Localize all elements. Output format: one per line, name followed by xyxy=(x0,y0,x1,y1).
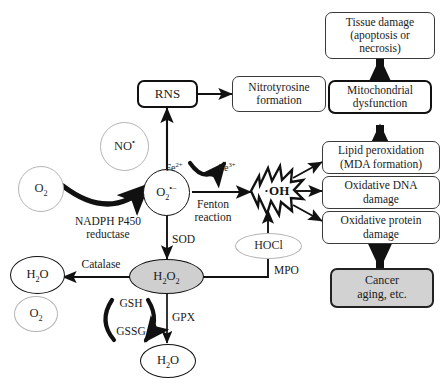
box-tissue-damage: Tissue damage (apoptosis or necrosis) xyxy=(325,12,435,59)
label-gssg: GSSG xyxy=(108,325,154,338)
hydroxyl-radical-label: ·OH xyxy=(257,181,297,201)
o2-lower-left-text: O2 xyxy=(29,307,42,321)
oval-water-left: H2O xyxy=(10,256,65,294)
edge-hydroxyl-to-lipid xyxy=(293,162,322,178)
label-fe3plus: Fe3+ xyxy=(210,150,244,173)
edge-hydroxyl-to-protein xyxy=(293,205,322,221)
oval-oxygen-lower-left: O2 xyxy=(14,296,58,332)
h2o2-text: H2O2 xyxy=(153,270,179,284)
box-lipid-peroxidation: Lipid peroxidation (MDA formation) xyxy=(322,141,440,174)
label-fe2plus: Fe2+ xyxy=(157,150,191,173)
edge-nadph-arc xyxy=(63,186,147,204)
oval-water-bottom: H2O xyxy=(140,344,196,378)
box-mitochondrial-dysfunction: Mitochondrial dysfunction xyxy=(328,80,432,114)
superoxide-text: O2•− xyxy=(156,186,177,200)
o2-left-text: O2 xyxy=(34,182,47,196)
box-cancer-aging: Cancer aging, etc. xyxy=(330,268,434,308)
oval-oxygen-left: O2 xyxy=(18,166,64,212)
label-fenton-reaction: Fenton reaction xyxy=(178,198,248,224)
label-gsh: GSH xyxy=(112,297,150,310)
box-nitrotyrosine-formation: Nitrotyrosine formation xyxy=(232,76,326,112)
h2o-bottom-text: H2O xyxy=(157,354,179,368)
label-sod: SOD xyxy=(172,233,208,246)
oval-nitric-oxide-radical: NO• xyxy=(100,122,149,171)
label-catalase: Catalase xyxy=(70,258,132,271)
oval-hydrogen-peroxide: H2O2 xyxy=(129,259,204,294)
oval-hypochlorous-acid: HOCl xyxy=(235,233,302,259)
ros-pathway-diagram: RNS Nitrotyrosine formation Tissue damag… xyxy=(0,0,444,388)
h2o-left-text: H2O xyxy=(26,268,48,282)
label-nadph-p450-reductase: NADPH P450 reductase xyxy=(52,215,164,241)
box-rns: RNS xyxy=(137,80,198,108)
no-radical-text: NO• xyxy=(114,140,135,154)
box-oxidative-protein-damage: Oxidative protein damage xyxy=(322,211,440,244)
label-mpo: MPO xyxy=(274,264,310,277)
box-oxidative-dna-damage: Oxidative DNA damage xyxy=(322,176,440,209)
label-gpx: GPX xyxy=(172,311,208,324)
